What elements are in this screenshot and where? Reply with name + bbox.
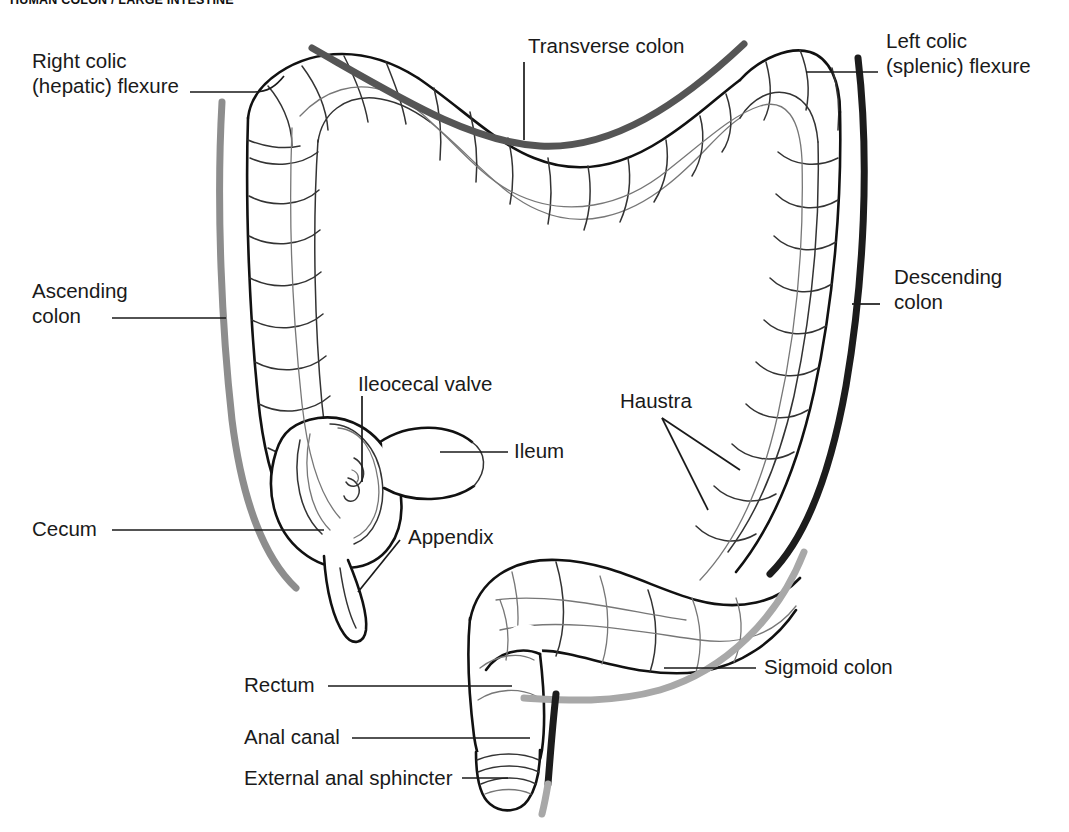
label-haustra: Haustra: [620, 388, 692, 413]
label-ileum: Ileum: [514, 438, 564, 463]
label-transverse-colon: Transverse colon: [528, 33, 684, 58]
label-left-colic-flexure-line2: (splenic) flexure: [886, 53, 1031, 78]
label-ileocecal-valve: Ileocecal valve: [358, 371, 492, 396]
label-right-colic-flexure-line1: Right colic: [32, 48, 127, 73]
label-descending-colon-line1: Descending: [894, 264, 1002, 289]
label-ascending-colon-line2: colon: [32, 303, 81, 328]
anal-canal-outline: [476, 750, 540, 811]
ileum-outline: [380, 428, 484, 500]
label-external-anal-sphincter: External anal sphincter: [244, 765, 453, 790]
label-descending-colon-line2: colon: [894, 289, 943, 314]
label-ascending-colon-line1: Ascending: [32, 278, 128, 303]
label-rectum: Rectum: [244, 672, 315, 697]
external-anal-sphincter-highlight-band: [542, 784, 548, 814]
colon-diagram-svg: .o { fill:none; stroke:#111111; stroke-w…: [0, 0, 1069, 832]
anal-canal-highlight-band: [548, 694, 556, 784]
label-cecum: Cecum: [32, 516, 97, 541]
label-anal-canal: Anal canal: [244, 724, 340, 749]
label-right-colic-flexure-line2: (hepatic) flexure: [32, 73, 179, 98]
label-left-colic-flexure-line1: Left colic: [886, 28, 967, 53]
label-sigmoid-colon: Sigmoid colon: [764, 654, 893, 679]
label-appendix: Appendix: [408, 524, 493, 549]
diagram-page: HUMAN COLON / LARGE INTESTINE .o { fill:…: [0, 0, 1069, 832]
